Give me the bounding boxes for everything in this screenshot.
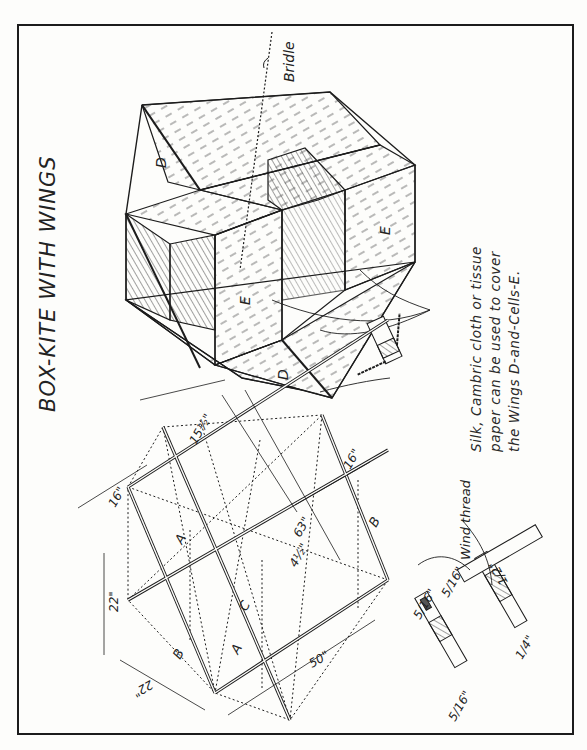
box-kite-illustration: D D E E Bridle BOX-KITE WITH WINGS Silk,… bbox=[0, 0, 587, 750]
dim-22-vertical: 22" bbox=[107, 591, 121, 612]
label-spar-c: C bbox=[236, 597, 254, 613]
assembled-kite bbox=[126, 32, 430, 398]
dim-joint-1-4: 1/4" bbox=[512, 633, 537, 662]
dim-joint-5-16-a: 5/16" bbox=[438, 564, 466, 599]
dim-50: 50" bbox=[307, 648, 332, 671]
page-title: BOX-KITE WITH WINGS bbox=[36, 155, 60, 412]
note-line-1: Silk, Cambric cloth or tissue bbox=[468, 246, 484, 452]
material-note: Silk, Cambric cloth or tissue paper can … bbox=[468, 246, 522, 453]
frame-part-labels: A A B B C bbox=[170, 514, 383, 661]
joint-dimensions: 5/16" 5/16" 5/16" 1/2" 1/4" bbox=[410, 559, 537, 724]
dim-16-left: 16" bbox=[105, 484, 128, 509]
frame-dimensions: 16" 15½" 16" 63" 4½" 22" 22" 50" bbox=[105, 411, 363, 700]
label-bridle: Bridle bbox=[281, 41, 297, 82]
label-wind-thread: Wind thread bbox=[458, 479, 473, 560]
drawing-sheet: D D E E Bridle BOX-KITE WITH WINGS Silk,… bbox=[0, 0, 587, 750]
label-cell-e-left: E bbox=[237, 296, 253, 305]
dim-joint-5-16-c: 5/16" bbox=[445, 688, 473, 723]
label-cell-e-right: E bbox=[377, 226, 393, 235]
dim-22-diag: 22" bbox=[130, 677, 155, 700]
dim-63: 63" bbox=[290, 514, 313, 539]
label-wing-d-upper: D bbox=[153, 157, 169, 168]
dim-15-half: 15½" bbox=[186, 411, 214, 446]
label-spar-a-2: A bbox=[227, 641, 245, 657]
label-wing-d-lower: D bbox=[275, 369, 291, 380]
note-line-2: paper can be used to cover bbox=[487, 250, 503, 453]
note-line-3: the Wings D-and-Cells-E. bbox=[506, 270, 522, 452]
label-spar-b-1: B bbox=[170, 646, 187, 661]
label-spar-a-1: A bbox=[171, 531, 189, 547]
